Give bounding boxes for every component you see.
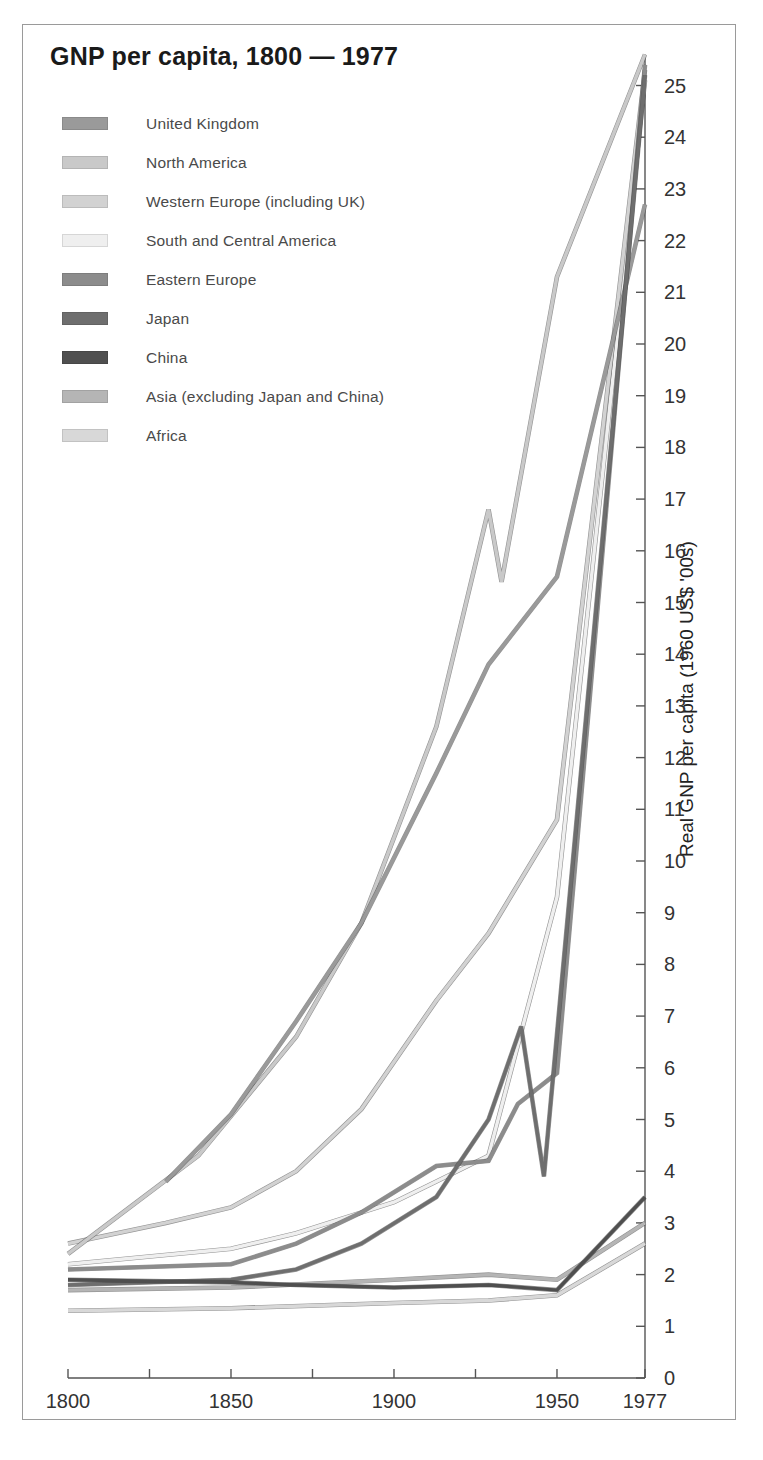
x-tick-label: 1977 <box>623 1390 668 1413</box>
y-tick-label: 18 <box>664 436 686 459</box>
y-tick-label: 9 <box>664 901 675 924</box>
y-tick-label: 23 <box>664 177 686 200</box>
y-tick-label: 8 <box>664 953 675 976</box>
x-tick-label: 1800 <box>46 1390 91 1413</box>
y-tick-label: 15 <box>664 591 686 614</box>
legend-item-label: United Kingdom <box>146 115 259 133</box>
y-tick-label: 13 <box>664 694 686 717</box>
legend-item[interactable]: Japan <box>62 299 482 338</box>
legend-item-label: North America <box>146 154 247 172</box>
legend-item-label: Western Europe (including UK) <box>146 193 365 211</box>
legend-swatch-icon <box>62 156 108 169</box>
y-tick-label: 16 <box>664 539 686 562</box>
legend-item[interactable]: North America <box>62 143 482 182</box>
legend-swatch-icon <box>62 273 108 286</box>
legend-item-label: South and Central America <box>146 232 336 250</box>
legend-item[interactable]: United Kingdom <box>62 104 482 143</box>
y-tick-label: 5 <box>664 1108 675 1131</box>
y-tick-label: 4 <box>664 1160 675 1183</box>
y-tick-label: 3 <box>664 1211 675 1234</box>
y-tick-label: 20 <box>664 333 686 356</box>
legend-swatch-icon <box>62 390 108 403</box>
y-tick-label: 1 <box>664 1315 675 1338</box>
x-tick-label: 1850 <box>209 1390 254 1413</box>
legend-item[interactable]: Asia (excluding Japan and China) <box>62 377 482 416</box>
chart-title: GNP per capita, 1800 — 1977 <box>50 42 398 71</box>
x-tick-label: 1900 <box>372 1390 417 1413</box>
legend-item-label: Asia (excluding Japan and China) <box>146 388 384 406</box>
y-tick-label: 21 <box>664 281 686 304</box>
y-tick-label: 24 <box>664 126 686 149</box>
legend-swatch-icon <box>62 117 108 130</box>
legend-item[interactable]: Western Europe (including UK) <box>62 182 482 221</box>
y-tick-label: 14 <box>664 643 686 666</box>
y-tick-label: 0 <box>664 1367 675 1390</box>
legend-swatch-icon <box>62 429 108 442</box>
legend-item-label: China <box>146 349 188 367</box>
chart-legend: United KingdomNorth AmericaWestern Europ… <box>62 104 482 455</box>
legend-item[interactable]: South and Central America <box>62 221 482 260</box>
y-tick-label: 19 <box>664 384 686 407</box>
legend-swatch-icon <box>62 351 108 364</box>
y-tick-label: 6 <box>664 1056 675 1079</box>
legend-item-label: Japan <box>146 310 189 328</box>
y-tick-label: 25 <box>664 74 686 97</box>
y-tick-label: 17 <box>664 488 686 511</box>
legend-item[interactable]: China <box>62 338 482 377</box>
legend-item[interactable]: Eastern Europe <box>62 260 482 299</box>
y-tick-label: 11 <box>664 798 685 821</box>
legend-item[interactable]: Africa <box>62 416 482 455</box>
y-tick-label: 12 <box>664 746 686 769</box>
y-tick-label: 22 <box>664 229 686 252</box>
legend-swatch-icon <box>62 234 108 247</box>
legend-item-label: Africa <box>146 427 187 445</box>
y-tick-label: 2 <box>664 1263 675 1286</box>
legend-swatch-icon <box>62 195 108 208</box>
legend-item-label: Eastern Europe <box>146 271 257 289</box>
y-tick-label: 10 <box>664 850 686 873</box>
legend-swatch-icon <box>62 312 108 325</box>
x-tick-label: 1950 <box>535 1390 580 1413</box>
y-tick-label: 7 <box>664 1005 675 1028</box>
